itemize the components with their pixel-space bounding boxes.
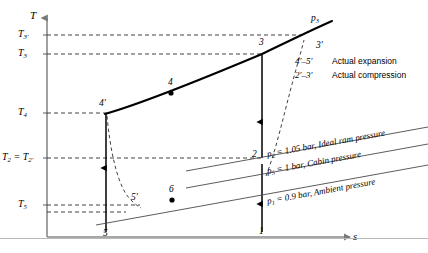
ts-diagram-figure: T s T3′ T3 T4 T2 = T2′ T5 p3 3′ 3 4 4′ 2… [0,0,428,253]
temp-label-T3: T3 [18,48,27,58]
temperature-guide-lines [47,35,305,212]
state-label-2: 2 [252,150,257,160]
axis-group [47,18,350,237]
state-label-6: 6 [169,185,174,195]
state-label-3prime: 3′ [316,41,323,51]
legend-code-expansion: 4′–5′ [295,57,312,66]
temp-label-T3prime: T3′ [18,29,28,39]
y-axis-label: T [30,10,36,21]
state-label-5prime: 5′ [131,193,138,203]
state-label-4: 4 [168,78,173,88]
legend-text-expansion: Actual expansion [332,57,397,66]
bottom-divider-rule [0,238,428,239]
x-axis-label: s [353,231,357,242]
legend-code-compression: 2′–3′ [295,71,312,80]
ts-diagram-canvas [0,0,428,253]
marker-6 [169,197,174,202]
legend-text-compression: Actual compression [332,71,406,80]
state-label-4prime: 4′ [99,99,106,109]
state-label-1: 1 [259,227,264,237]
marker-4 [168,90,173,95]
curve-label-p3: p3 [311,14,319,24]
temp-label-T5: T5 [18,199,27,209]
temp-label-T2: T2 = T2′ [2,152,33,162]
state-label-3: 3 [259,38,264,48]
temp-label-T4: T4 [18,107,27,117]
